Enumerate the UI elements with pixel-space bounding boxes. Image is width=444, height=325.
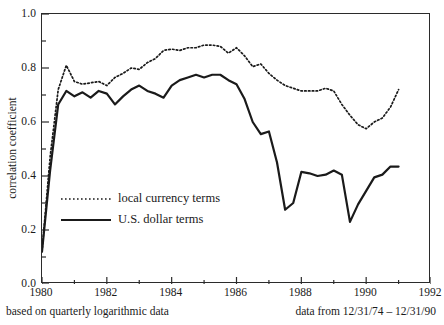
x-tick-label: 1980 — [30, 286, 53, 298]
x-tick-label: 1982 — [94, 286, 117, 298]
y-tick-label: 0.2 — [21, 223, 36, 235]
plot-svg — [42, 14, 431, 284]
caption-right: data from 12/31/74 – 12/31/90 — [295, 305, 436, 317]
x-tick-label: 1988 — [289, 286, 312, 298]
chart-figure: 0.00.20.40.60.81.0 correlation coefficie… — [0, 0, 444, 325]
legend-label-local-currency: local currency terms — [112, 191, 220, 206]
legend-item-local-currency: local currency terms — [60, 188, 250, 209]
chart-legend: local currency terms U.S. dollar terms — [60, 188, 250, 230]
y-axis-title-wrapper: correlation coefficient — [13, 0, 14, 325]
x-tick-label: 1984 — [159, 286, 182, 298]
y-tick-label: 0.6 — [21, 115, 36, 127]
x-tick-label: 1986 — [224, 286, 247, 298]
x-axis-tick-labels: 1980198219841986198819901992 — [0, 286, 444, 304]
x-tick-label: 1992 — [419, 286, 442, 298]
y-tick-label: 1.0 — [21, 7, 36, 19]
y-axis-title: correlation coefficient — [6, 63, 18, 233]
y-tick-label: 0.8 — [21, 61, 36, 73]
solid-line-key — [60, 215, 112, 225]
dotted-line-key — [60, 194, 112, 204]
legend-label-us-dollar: U.S. dollar terms — [112, 212, 203, 227]
legend-item-us-dollar: U.S. dollar terms — [60, 209, 250, 230]
plot-area — [41, 13, 430, 283]
caption-left: based on quarterly logarithmic data — [6, 305, 169, 317]
y-tick-label: 0.4 — [21, 169, 36, 181]
x-tick-label: 1990 — [354, 286, 377, 298]
